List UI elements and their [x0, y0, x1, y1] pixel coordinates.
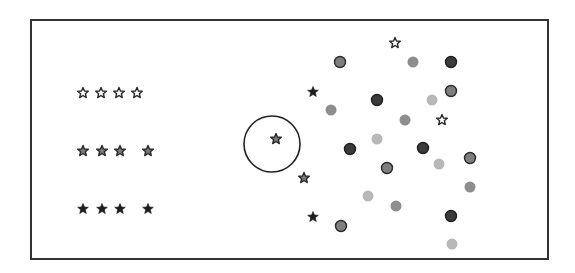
- star-solid-icon: [97, 203, 108, 213]
- star-outline-icon: [78, 87, 89, 97]
- dot-dark: [345, 144, 356, 155]
- dot-medium: [465, 182, 476, 193]
- star-medium-icon: [97, 145, 108, 155]
- star-outline-icon: [114, 87, 125, 97]
- scatter-stars-group: [271, 37, 448, 221]
- star-outline-icon: [96, 87, 107, 97]
- dot-medium-outlined: [336, 221, 347, 232]
- dot-medium: [408, 57, 419, 68]
- dot-medium: [391, 201, 402, 212]
- star-medium-icon: [78, 145, 89, 155]
- star-medium-icon: [299, 172, 310, 182]
- star-rows-group: [78, 87, 154, 213]
- star-outline-icon: [437, 114, 448, 124]
- highlight-circle: [244, 116, 300, 172]
- star-solid-icon: [308, 211, 319, 221]
- dot-light: [372, 134, 383, 145]
- dot-medium-outlined: [465, 153, 476, 164]
- dot-dark: [446, 211, 457, 222]
- dot-medium-outlined: [335, 57, 346, 68]
- dot-dark: [372, 95, 383, 106]
- star-solid-icon: [143, 203, 154, 213]
- dot-cluster: [326, 57, 476, 250]
- dot-medium: [326, 105, 337, 116]
- diagram-canvas: [0, 0, 575, 273]
- dot-dark: [446, 57, 457, 68]
- star-outline-icon: [132, 87, 143, 97]
- dot-light: [427, 95, 438, 106]
- dot-dark: [418, 143, 429, 154]
- star-medium-icon: [143, 145, 154, 155]
- star-solid-icon: [78, 203, 89, 213]
- star-solid-icon: [308, 86, 319, 96]
- diagram-frame: [31, 20, 548, 259]
- dot-medium-outlined: [446, 86, 457, 97]
- dot-light: [447, 239, 458, 250]
- star-outline-icon: [390, 37, 401, 47]
- star-medium-icon: [271, 133, 282, 143]
- dot-light: [363, 191, 374, 202]
- star-solid-icon: [115, 203, 126, 213]
- dot-medium: [400, 115, 411, 126]
- dot-light: [434, 159, 445, 170]
- star-medium-icon: [115, 145, 126, 155]
- dot-medium-outlined: [382, 163, 393, 174]
